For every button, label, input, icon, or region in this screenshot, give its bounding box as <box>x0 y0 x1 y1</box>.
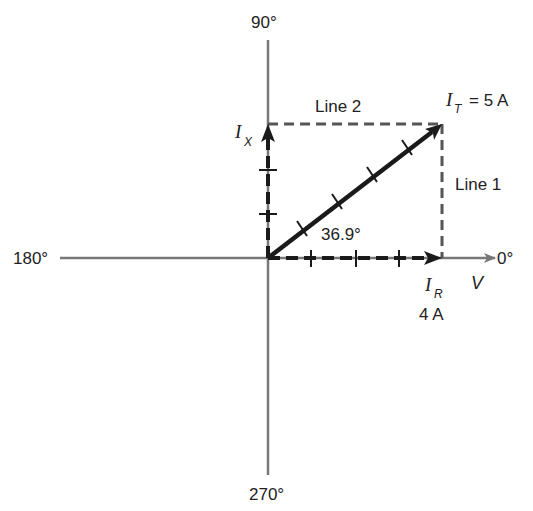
label-90-degrees: 90° <box>251 13 277 32</box>
label-line-1: Line 1 <box>455 175 501 194</box>
label-0-degrees: 0° <box>497 249 513 268</box>
svg-text:T: T <box>454 102 463 116</box>
label-270-degrees: 270° <box>249 485 284 504</box>
label-line-2: Line 2 <box>315 97 361 116</box>
svg-text:X: X <box>243 135 253 149</box>
label-ir: I R 4 A <box>419 274 444 324</box>
label-angle: 36.9° <box>321 225 361 244</box>
svg-text:R: R <box>434 287 443 301</box>
label-ix: I X <box>234 121 253 149</box>
phasor-diagram: 90° 270° 180° 0° V Line 2 Line 1 36.9° I… <box>0 0 533 511</box>
label-180-degrees: 180° <box>13 249 48 268</box>
phasor-ir <box>268 250 442 267</box>
svg-text:I: I <box>234 121 243 142</box>
label-ir-value: 4 A <box>419 305 444 324</box>
svg-text:= 5 A: = 5 A <box>469 91 509 110</box>
svg-text:I: I <box>445 89 454 110</box>
svg-text:I: I <box>424 274 433 295</box>
label-reference-v: V <box>471 273 485 293</box>
label-it: I T = 5 A <box>445 89 509 116</box>
